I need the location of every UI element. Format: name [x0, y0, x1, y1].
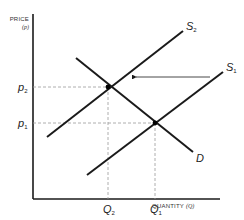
label-s1: S1 [226, 61, 237, 74]
supply-curve-s2 [47, 31, 183, 137]
label-p2: p2 [17, 81, 28, 94]
label-d: D [196, 152, 204, 164]
label-p1: p1 [17, 117, 28, 130]
x-axis-symbol: (Q) [186, 203, 194, 210]
y-axis-label: PRICE [10, 16, 29, 22]
supply-demand-diagram: PRICE (p) QUANTITY (Q) S2 S1 D p2 p1 Q2 … [0, 0, 244, 220]
label-s2: S2 [186, 20, 197, 33]
y-axis-symbol: (p) [22, 24, 29, 31]
equilibrium-point-2 [106, 85, 111, 90]
equilibrium-point-1 [153, 121, 158, 126]
label-q2: Q2 [103, 203, 116, 216]
